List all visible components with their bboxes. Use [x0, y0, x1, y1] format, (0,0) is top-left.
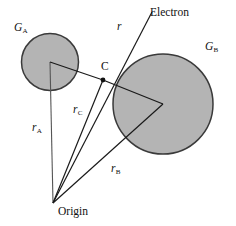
label-g-a: GA	[14, 22, 27, 34]
label-electron: Electron	[150, 7, 189, 19]
geometry-diagram-svg	[0, 0, 236, 226]
vector-r-b	[53, 104, 163, 203]
label-r: r	[117, 21, 121, 33]
point-c-dot	[101, 78, 106, 83]
figure-canvas: GA GB Electron r C rA rC rB Origin	[0, 0, 236, 226]
vector-r-c	[53, 80, 103, 203]
label-r-b: rB	[111, 163, 120, 175]
label-r-c: rC	[73, 104, 82, 116]
label-origin: Origin	[58, 206, 88, 218]
label-point-c: C	[101, 61, 109, 73]
label-g-b: GB	[205, 41, 218, 53]
label-r-a: rA	[32, 122, 42, 134]
